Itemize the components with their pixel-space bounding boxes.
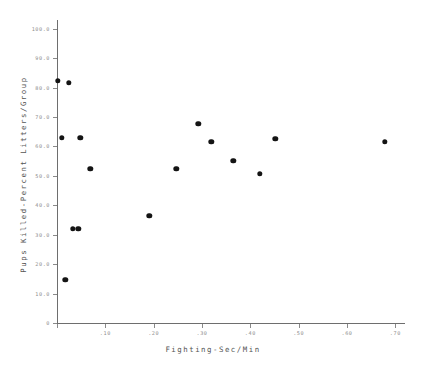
y-tick-label: 0 [46, 320, 50, 326]
x-tick-mark [57, 324, 58, 328]
data-point [382, 139, 387, 144]
y-tick-mark [53, 205, 57, 206]
x-tick-mark [154, 324, 155, 328]
data-point [76, 226, 81, 231]
y-tick-mark [53, 264, 57, 265]
data-point [195, 121, 200, 126]
y-tick-label: 10.0 [35, 291, 50, 297]
y-tick-label: 90.0 [35, 55, 50, 61]
y-tick-label: 40.0 [35, 202, 50, 208]
data-point [257, 171, 262, 176]
y-tick-mark [53, 235, 57, 236]
y-tick-mark [53, 176, 57, 177]
x-tick-label: .10 [100, 330, 111, 336]
y-tick-label: 100.0 [32, 26, 50, 32]
y-tick-label: 80.0 [35, 85, 50, 91]
y-axis-title: Pups Killed-Percent Litters/Group [19, 60, 28, 290]
y-tick-label: 50.0 [35, 173, 50, 179]
data-point [63, 277, 68, 282]
data-point [147, 213, 152, 218]
y-axis-line [57, 20, 58, 324]
x-tick-mark [202, 324, 203, 328]
x-tick-label: .30 [196, 330, 207, 336]
y-tick-mark [53, 146, 57, 147]
data-point [77, 135, 82, 140]
data-point [88, 166, 93, 171]
data-point [174, 166, 179, 171]
x-tick-mark [395, 324, 396, 328]
y-tick-mark [53, 29, 57, 30]
x-tick-label: .50 [293, 330, 304, 336]
y-tick-label: 20.0 [35, 261, 50, 267]
y-tick-mark [53, 294, 57, 295]
data-point [55, 78, 60, 83]
x-tick-mark [347, 324, 348, 328]
data-point [273, 136, 278, 141]
data-point [208, 139, 213, 144]
y-tick-mark [53, 58, 57, 59]
scatter-plot-figure: 010.020.030.040.050.060.070.080.090.0100… [0, 0, 426, 379]
x-tick-label: .40 [245, 330, 256, 336]
x-tick-label: .20 [148, 330, 159, 336]
x-tick-mark [299, 324, 300, 328]
y-tick-mark [53, 117, 57, 118]
data-point [66, 80, 71, 85]
y-tick-mark [53, 88, 57, 89]
y-tick-label: 60.0 [35, 143, 50, 149]
y-tick-label: 70.0 [35, 114, 50, 120]
x-tick-label: .70 [390, 330, 401, 336]
x-tick-mark [105, 324, 106, 328]
x-tick-label: .60 [341, 330, 352, 336]
x-axis-line [57, 323, 405, 324]
y-tick-label: 30.0 [35, 232, 50, 238]
x-tick-mark [250, 324, 251, 328]
x-axis-title: Fighting-Sec/Min [0, 345, 426, 354]
data-point [231, 158, 236, 163]
data-point [59, 135, 64, 140]
